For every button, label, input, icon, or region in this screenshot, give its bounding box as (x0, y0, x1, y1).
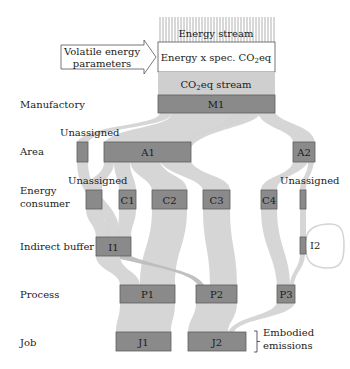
node-i1-label: I1 (108, 242, 118, 253)
annotation-embodied-line2: emissions (263, 340, 313, 351)
embodied-bracket (254, 331, 260, 352)
flow-m1-a2 (258, 113, 315, 142)
row-label-area: Area (19, 146, 44, 157)
node-c4-label: C4 (262, 195, 276, 206)
flow-c1-i1 (118, 209, 136, 237)
node-p2-label: P2 (210, 289, 223, 300)
node-a2-label: A2 (296, 147, 311, 158)
flow-p1-j1 (116, 303, 175, 332)
node-i2 (300, 237, 306, 254)
node-consumer-unassigned (86, 190, 102, 209)
flow-p2-j2 (188, 303, 237, 332)
row-label-consumer-1: Energy (20, 185, 57, 196)
row-label-manufactory: Manufactory (20, 99, 85, 110)
flow-unassigned-right-i2 (300, 209, 306, 237)
volatile-label-line2: parameters (73, 58, 131, 69)
node-i2-label: I2 (310, 240, 320, 251)
flow-i2-p3 (290, 254, 305, 285)
header-stack: Energy stream Energy x spec. CO2eq CO2eq… (61, 17, 275, 95)
row-label-buffer: Indirect buffer (20, 241, 94, 252)
annotation-unassigned-area: Unassigned (60, 127, 120, 138)
node-c3-label: C3 (209, 195, 223, 206)
node-area-unassigned (77, 142, 88, 162)
node-c1-label: C1 (120, 195, 134, 206)
node-m1-label: M1 (208, 99, 225, 110)
energy-stream-label: Energy stream (179, 28, 254, 39)
node-c2-label: C2 (162, 195, 176, 206)
node-j1-label: J1 (137, 337, 148, 348)
node-p3-label: P3 (279, 289, 292, 300)
flow-c4-p3 (261, 209, 290, 285)
flow-c3-p2 (203, 209, 237, 285)
row-label-consumer-2: consumer (20, 198, 70, 209)
node-p1-label: P1 (141, 289, 154, 300)
row-label-process: Process (20, 289, 59, 300)
annotation-unassigned-consumer-left: Unassigned (68, 175, 128, 186)
annotation-unassigned-consumer-right: Unassigned (280, 175, 340, 186)
volatile-label-line1: Volatile energy (63, 46, 140, 57)
sankey-diagram: Energy stream Energy x spec. CO2eq CO2eq… (0, 0, 350, 369)
node-consumer-unassigned-right (300, 190, 306, 209)
node-j2-label: J2 (211, 337, 222, 348)
node-a1-label: A1 (140, 147, 155, 158)
row-label-job: Job (19, 337, 36, 348)
annotation-embodied-line1: Embodied (263, 327, 315, 338)
